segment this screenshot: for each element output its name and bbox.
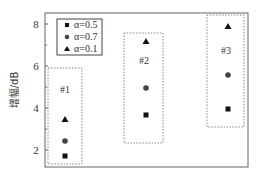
square-marker — [226, 107, 231, 112]
triangle-marker — [225, 23, 232, 29]
y-tick-label: 8 — [33, 18, 39, 30]
square-marker — [144, 113, 149, 118]
triangle-marker — [62, 116, 69, 122]
legend-item-2: α=0.1 — [74, 43, 97, 54]
legend-item-1: α=0.7 — [74, 31, 97, 42]
y-axis-label: 增幅/dB — [8, 72, 20, 109]
group-label-2: #2 — [139, 55, 149, 66]
group-label-3: #3 — [221, 45, 231, 56]
chart: 8 6 4 2 增幅/dB #1 #2 #3 α=0.5 α=0.7 α=0.1 — [0, 0, 264, 181]
y-tick-label: 2 — [33, 144, 39, 156]
triangle-marker — [143, 38, 150, 44]
y-tick-label: 4 — [33, 102, 39, 114]
circle-marker — [225, 72, 231, 78]
group-label-1: #1 — [60, 84, 70, 95]
legend-circle-icon — [65, 35, 70, 40]
legend: α=0.5 α=0.7 α=0.1 — [57, 19, 102, 55]
circle-marker — [62, 138, 68, 144]
legend-square-icon — [65, 23, 69, 27]
square-marker — [63, 154, 68, 159]
legend-item-0: α=0.5 — [74, 19, 97, 30]
circle-marker — [143, 85, 149, 91]
y-tick-label: 6 — [33, 60, 39, 72]
